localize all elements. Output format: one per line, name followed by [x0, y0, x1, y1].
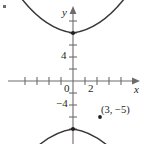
annotated-point-marker — [98, 115, 102, 119]
y-axis-arrowhead — [70, 6, 77, 14]
hyperbola-figure: 0 2 4 −4 x y (3, −5) — [0, 0, 144, 144]
axes-group — [8, 6, 140, 144]
y-axis-label: y — [62, 7, 67, 18]
vertex-marker-upper — [71, 31, 75, 35]
annotated-point-label: (3, −5) — [101, 105, 130, 116]
tick-label-y-4: 4 — [61, 50, 67, 61]
vertex-marker-lower — [71, 127, 75, 131]
tick-label-origin: 0 — [64, 83, 70, 94]
tick-label-x-2: 2 — [88, 83, 94, 94]
tick-label-y-negative-4: −4 — [56, 98, 68, 109]
x-axis-label: x — [134, 84, 139, 95]
plot-canvas — [0, 0, 144, 144]
